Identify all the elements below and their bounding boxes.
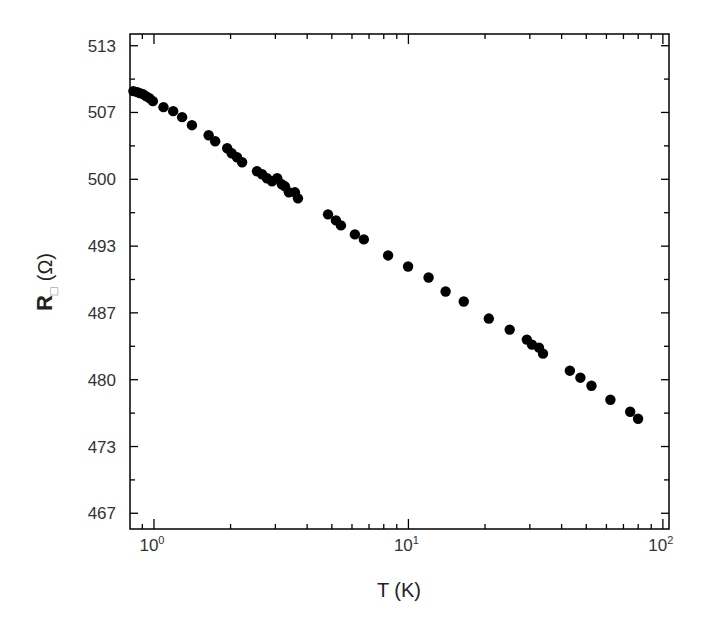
y-axis-title-subscript: □ bbox=[46, 287, 61, 295]
data-point bbox=[187, 120, 197, 130]
data-point bbox=[210, 136, 220, 146]
data-point bbox=[158, 102, 168, 112]
data-point bbox=[237, 157, 247, 167]
data-point bbox=[350, 229, 360, 239]
data-point bbox=[423, 272, 433, 282]
svg-text:R□(Ω): R□(Ω) bbox=[32, 253, 61, 311]
data-point bbox=[504, 324, 514, 334]
y-tick-label: 473 bbox=[88, 438, 116, 457]
data-point bbox=[148, 96, 158, 106]
data-point bbox=[625, 407, 635, 417]
data-point bbox=[575, 372, 585, 382]
x-tick-label: 102 bbox=[648, 534, 673, 555]
data-point bbox=[484, 313, 494, 323]
x-axis-title: T (K) bbox=[377, 579, 421, 601]
data-point bbox=[293, 193, 303, 203]
data-point bbox=[605, 395, 615, 405]
x-tick-label: 100 bbox=[139, 534, 164, 555]
data-point bbox=[565, 365, 575, 375]
y-tick-label: 487 bbox=[88, 304, 116, 323]
data-points bbox=[128, 86, 643, 424]
data-point bbox=[586, 381, 596, 391]
data-point bbox=[336, 220, 346, 230]
y-tick-label: 507 bbox=[88, 103, 116, 122]
data-point bbox=[359, 234, 369, 244]
y-tick-label: 513 bbox=[88, 37, 116, 56]
x-tick-label: 101 bbox=[394, 534, 419, 555]
minor-ticks bbox=[130, 34, 669, 529]
data-point bbox=[403, 261, 413, 271]
data-point bbox=[168, 106, 178, 116]
y-tick-label: 480 bbox=[88, 371, 116, 390]
y-tick-label: 500 bbox=[88, 170, 116, 189]
data-point bbox=[633, 414, 643, 424]
y-tick-label: 493 bbox=[88, 237, 116, 256]
y-tick-label: 467 bbox=[88, 504, 116, 523]
major-ticks bbox=[130, 34, 669, 529]
y-tick-labels: 513507500493487480473467 bbox=[88, 37, 116, 524]
data-point bbox=[383, 250, 393, 260]
data-point bbox=[440, 286, 450, 296]
x-tick-labels: 100101102 bbox=[139, 534, 673, 555]
y-axis-title-unit: (Ω) bbox=[34, 253, 56, 281]
data-point bbox=[538, 348, 548, 358]
y-axis-title-main: R bbox=[32, 295, 57, 311]
chart: 513507500493487480473467 100101102 T (K)… bbox=[0, 0, 705, 629]
y-axis-title: R□(Ω) bbox=[32, 253, 61, 311]
data-point bbox=[459, 296, 469, 306]
data-point bbox=[177, 112, 187, 122]
plot-frame bbox=[130, 34, 669, 529]
